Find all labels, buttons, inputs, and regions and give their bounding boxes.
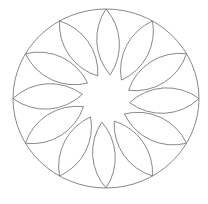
petal [59, 21, 97, 76]
petal [124, 112, 186, 145]
petal [13, 84, 82, 109]
petal-group [13, 9, 199, 188]
petal [130, 88, 199, 113]
petal [129, 53, 187, 90]
outer-circle [13, 9, 199, 188]
petal [114, 121, 152, 176]
petal [25, 106, 83, 143]
petal [25, 52, 87, 85]
petal [97, 9, 120, 75]
petal [59, 117, 92, 176]
rosette-diagram [0, 0, 208, 204]
petal [121, 21, 154, 80]
petal [93, 122, 116, 188]
